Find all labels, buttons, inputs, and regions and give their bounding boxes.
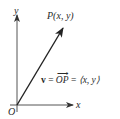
vector-components: ⟨x, y⟩ xyxy=(79,75,100,85)
vector-diagram: y x O P(x, y) v = ⟶OP = ⟨x, y⟩ xyxy=(0,0,120,119)
point-p-label: P(x, y) xyxy=(47,11,74,21)
overarrow-icon: ⟶ xyxy=(56,70,69,78)
y-axis-label: y xyxy=(14,6,18,16)
vector-symbol: v xyxy=(41,75,46,85)
vector-formula: v = ⟶OP = ⟨x, y⟩ xyxy=(41,76,100,86)
origin-label: O xyxy=(8,107,15,117)
equals-sign: = xyxy=(48,75,53,85)
x-axis-label: x xyxy=(76,100,80,110)
vector-op-notation: ⟶OP xyxy=(56,76,69,86)
equals-sign-2: = xyxy=(71,75,76,85)
vector-op-arrow xyxy=(17,28,63,105)
